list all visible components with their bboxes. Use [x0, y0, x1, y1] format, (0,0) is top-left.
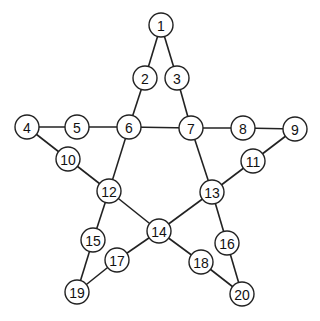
node-3: 3: [165, 66, 189, 90]
node-label: 5: [73, 120, 81, 136]
node-16: 16: [215, 231, 239, 255]
node-label: 18: [193, 255, 209, 271]
nodes-layer: 1234567891011121314151617181920: [15, 13, 307, 306]
node-19: 19: [65, 280, 89, 304]
node-20: 20: [230, 282, 254, 306]
node-label: 9: [291, 122, 299, 138]
node-label: 20: [234, 287, 250, 303]
node-label: 6: [125, 120, 133, 136]
node-13: 13: [200, 180, 224, 204]
node-2: 2: [133, 66, 157, 90]
node-9: 9: [283, 117, 307, 141]
node-label: 14: [151, 224, 167, 240]
node-7: 7: [179, 116, 203, 140]
node-4: 4: [15, 115, 39, 139]
node-6: 6: [117, 115, 141, 139]
node-1: 1: [149, 13, 173, 37]
node-label: 8: [239, 121, 247, 137]
node-label: 15: [85, 233, 101, 249]
node-15: 15: [81, 228, 105, 252]
graph-svg: 1234567891011121314151617181920: [0, 0, 320, 321]
node-18: 18: [189, 250, 213, 274]
node-label: 11: [246, 154, 261, 170]
node-12: 12: [97, 179, 121, 203]
node-17: 17: [105, 248, 129, 272]
node-11: 11: [241, 149, 265, 173]
node-label: 7: [187, 121, 195, 137]
node-14: 14: [147, 219, 171, 243]
node-label: 13: [204, 185, 220, 201]
node-label: 2: [141, 71, 149, 87]
node-label: 19: [69, 285, 85, 301]
node-5: 5: [65, 115, 89, 139]
node-8: 8: [231, 116, 255, 140]
node-label: 16: [219, 236, 235, 252]
node-label: 12: [101, 184, 117, 200]
node-label: 4: [23, 120, 31, 136]
node-label: 3: [173, 71, 181, 87]
star-graph-diagram: 1234567891011121314151617181920: [0, 0, 320, 321]
node-10: 10: [56, 147, 80, 171]
node-label: 17: [109, 253, 125, 269]
node-label: 1: [157, 18, 165, 34]
node-label: 10: [60, 152, 76, 168]
